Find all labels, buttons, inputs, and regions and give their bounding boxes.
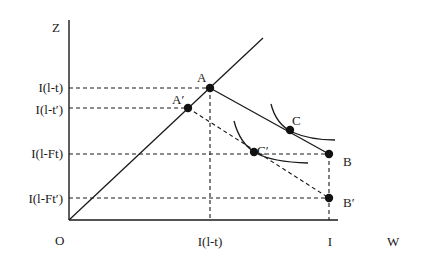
budget-line-ab <box>210 88 329 154</box>
indifference-curve-c <box>271 104 335 140</box>
y-tick-label: I(l-t) <box>38 80 63 95</box>
point-b <box>325 150 333 158</box>
point-a <box>206 84 214 92</box>
point-label-c-prime: C′ <box>257 143 269 158</box>
y-tick-label: I(l-t′) <box>36 102 63 117</box>
point-label-b: B <box>343 154 352 169</box>
point-label-a: A <box>197 70 207 85</box>
forty-five-degree-line <box>69 38 263 220</box>
origin-label: O <box>55 233 64 248</box>
point-label-a-prime: A′ <box>172 92 184 107</box>
x-tick-label: I <box>328 234 332 249</box>
y-tick-label: I(l-Ft′) <box>28 191 63 206</box>
point-b-prime <box>325 194 333 202</box>
x-axis-label: W <box>387 234 400 249</box>
x-tick-label: I(l-t) <box>198 234 223 249</box>
y-tick-label: I(l-Ft) <box>31 146 63 161</box>
y-axis-label: Z <box>52 20 60 35</box>
diagram-canvas: Z W O I(l-t) I(l-t′) I(l-Ft) I(l-Ft′) I(… <box>0 0 425 263</box>
point-label-b-prime: B′ <box>343 195 355 210</box>
point-a-prime <box>184 104 192 112</box>
point-label-c: C <box>292 113 301 128</box>
